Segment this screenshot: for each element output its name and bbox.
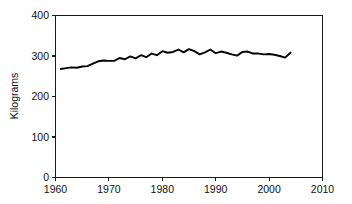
axis-frame <box>56 16 323 178</box>
x-tick-label: 1970 <box>97 183 121 195</box>
x-tick-label: 1990 <box>204 183 228 195</box>
x-tick-label: 2000 <box>257 183 281 195</box>
line-chart: 0100200300400 196019701980199020002010 K… <box>0 0 352 204</box>
y-tick-label: 100 <box>31 131 49 143</box>
y-tick-label: 300 <box>31 50 49 62</box>
y-axis-title: Kilograms <box>8 73 20 120</box>
y-tick-label: 400 <box>31 9 49 21</box>
y-tick-label: 200 <box>31 90 49 102</box>
x-tick-label: 1980 <box>151 183 175 195</box>
x-axis-ticks: 196019701980199020002010 <box>44 178 335 195</box>
x-tick-label: 2010 <box>311 183 335 195</box>
chart-container: 0100200300400 196019701980199020002010 K… <box>0 0 352 204</box>
data-series-group <box>61 49 291 69</box>
y-axis-ticks: 0100200300400 <box>31 9 55 183</box>
y-tick-label: 0 <box>43 171 49 183</box>
x-tick-label: 1960 <box>44 183 68 195</box>
series-line <box>61 49 291 69</box>
axis-group <box>56 16 323 178</box>
